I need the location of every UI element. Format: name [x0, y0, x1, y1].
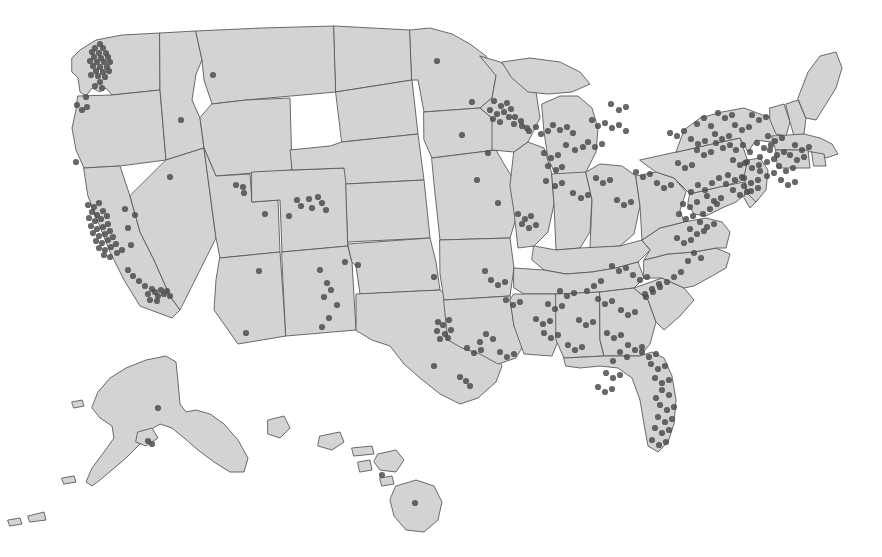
map-data-point: [599, 141, 605, 147]
map-data-point: [690, 213, 696, 219]
map-data-point: [210, 72, 216, 78]
map-data-point: [595, 123, 601, 129]
map-data-point: [761, 145, 767, 151]
map-data-point: [697, 219, 703, 225]
map-data-point: [511, 121, 517, 127]
map-data-point: [755, 177, 761, 183]
map-data-point: [545, 301, 551, 307]
map-data-point: [559, 164, 565, 170]
map-data-point: [739, 127, 745, 133]
map-data-point: [149, 441, 155, 447]
map-data-point: [445, 335, 451, 341]
map-data-point: [564, 124, 570, 130]
map-data-point: [609, 298, 615, 304]
map-data-point: [602, 389, 608, 395]
map-data-point: [99, 85, 105, 91]
map-data-point: [559, 180, 565, 186]
map-data-point: [519, 221, 525, 227]
map-data-point: [624, 354, 630, 360]
map-data-point: [88, 72, 94, 78]
map-data-point: [437, 336, 443, 342]
map-data-point: [695, 141, 701, 147]
map-data-point: [548, 335, 554, 341]
map-data-point: [680, 201, 686, 207]
map-data-point: [756, 117, 762, 123]
map-data-point: [609, 386, 615, 392]
map-data-point: [656, 281, 662, 287]
map-data-point: [748, 180, 754, 186]
map-data-point: [618, 332, 624, 338]
map-data-point: [510, 302, 516, 308]
map-data-point: [73, 159, 79, 165]
map-data-point: [667, 130, 673, 136]
map-data-point: [474, 177, 480, 183]
map-data-point: [614, 197, 620, 203]
map-data-point: [609, 125, 615, 131]
map-data-point: [355, 262, 361, 268]
map-data-point: [674, 133, 680, 139]
map-data-point: [664, 279, 670, 285]
map-data-point: [747, 149, 753, 155]
map-data-point: [637, 277, 643, 283]
map-data-point: [434, 58, 440, 64]
map-data-point: [125, 267, 131, 273]
map-data-point: [595, 296, 601, 302]
map-data-point: [256, 268, 262, 274]
map-data-point: [98, 216, 104, 222]
map-data-point: [508, 106, 514, 112]
map-data-point: [154, 298, 160, 304]
map-data-point: [694, 121, 700, 127]
map-data-point: [528, 213, 534, 219]
map-data-point: [694, 147, 700, 153]
state-oklahoma: [348, 238, 440, 294]
map-data-point: [533, 124, 539, 130]
map-data-point: [446, 317, 452, 323]
map-data-point: [625, 312, 631, 318]
map-data-point: [701, 228, 707, 234]
map-data-point: [294, 197, 300, 203]
map-data-point: [744, 189, 750, 195]
map-data-point: [497, 119, 503, 125]
state-arkansas: [440, 238, 514, 300]
map-data-point: [685, 258, 691, 264]
map-data-point: [785, 182, 791, 188]
map-data-point: [776, 163, 782, 169]
map-data-point: [463, 378, 469, 384]
map-data-point: [687, 226, 693, 232]
map-data-point: [668, 182, 674, 188]
map-data-point: [585, 192, 591, 198]
map-data-point: [678, 269, 684, 275]
map-data-point: [342, 259, 348, 265]
map-data-point: [675, 160, 681, 166]
map-data-point: [503, 297, 509, 303]
map-data-point: [799, 147, 805, 153]
map-data-point: [700, 211, 706, 217]
map-data-point: [794, 157, 800, 163]
map-data-point: [589, 117, 595, 123]
map-data-point: [623, 128, 629, 134]
map-data-point: [324, 280, 330, 286]
map-data-point: [326, 315, 332, 321]
map-data-point: [781, 149, 787, 155]
map-data-point: [647, 171, 653, 177]
state-wyoming: [200, 98, 292, 176]
map-data-point: [241, 190, 247, 196]
map-data-point: [309, 205, 315, 211]
map-data-point: [633, 169, 639, 175]
map-data-point: [92, 83, 98, 89]
map-data-point: [106, 68, 112, 74]
map-data-point: [592, 144, 598, 150]
map-data-point: [119, 247, 125, 253]
map-data-point: [563, 142, 569, 148]
map-data-point: [649, 437, 655, 443]
map-data-point: [617, 372, 623, 378]
map-data-point: [506, 114, 512, 120]
map-data-point: [625, 342, 631, 348]
map-data-point: [714, 201, 720, 207]
map-data-point: [698, 255, 704, 261]
map-data-point: [128, 242, 134, 248]
map-data-point: [286, 213, 292, 219]
map-data-point: [580, 144, 586, 150]
map-data-point: [694, 231, 700, 237]
map-data-point: [792, 142, 798, 148]
